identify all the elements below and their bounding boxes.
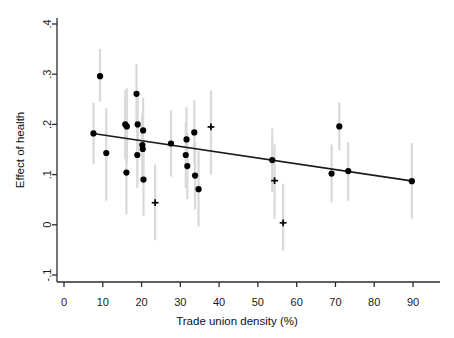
x-tick-label: 10 [97,296,109,308]
scatter-plot-figure: -.10.1.2.3.40102030405060708090 Trade un… [0,0,454,338]
data-point-circle [328,170,334,176]
data-point-circle [140,177,146,183]
x-tick-label: 50 [252,296,264,308]
data-point-circle [409,178,415,184]
y-tick-label: .2 [41,120,53,129]
plot-background [0,0,454,338]
x-tick-label: 70 [329,296,341,308]
x-tick-label: 60 [291,296,303,308]
data-point-circle [135,121,141,127]
x-tick-label: 90 [407,296,419,308]
y-tick-label: .4 [41,19,53,28]
data-point-circle [133,91,139,97]
data-point-circle [269,157,275,163]
data-point-circle [195,186,201,192]
x-tick-label: 80 [368,296,380,308]
data-point-circle [168,140,174,146]
x-tick-label: 0 [61,296,67,308]
x-tick-label: 40 [213,296,225,308]
data-point-circle [140,146,146,152]
data-point-circle [192,173,198,179]
data-point-circle [97,73,103,79]
data-point-circle [124,123,130,129]
plot-canvas: -.10.1.2.3.40102030405060708090 Trade un… [0,0,454,338]
data-point-circle [336,123,342,129]
data-point-circle [140,127,146,133]
data-point-circle [183,136,189,142]
data-point-circle [134,152,140,158]
x-tick-label: 20 [135,296,147,308]
data-point-circle [345,168,351,174]
y-tick-label: -.1 [41,269,53,282]
y-axis-title: Effect of health [14,112,26,189]
data-point-circle [103,150,109,156]
y-tick-label: .1 [41,170,53,179]
x-tick-label: 30 [174,296,186,308]
data-point-circle [184,163,190,169]
y-tick-label: .3 [41,70,53,79]
data-point-circle [90,130,96,136]
data-point-circle [123,169,129,175]
data-point-circle [183,152,189,158]
data-point-circle [191,129,197,135]
x-axis-title: Trade union density (%) [176,315,298,327]
y-tick-label: 0 [41,222,53,228]
